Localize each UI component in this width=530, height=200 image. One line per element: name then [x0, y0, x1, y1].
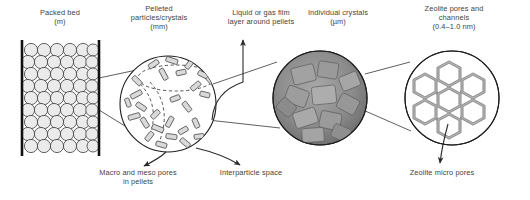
- figure-canvas: Packed bed (m) Pelleted particles/crysta…: [0, 0, 530, 200]
- label-packed-bed: Packed bed (m): [12, 8, 108, 26]
- label-zeolite-pores-channels: Zeolite pores and channels (0.4–1.0 nm): [399, 4, 509, 32]
- label-interparticle-space: Interparticle space: [205, 168, 297, 177]
- label-individual-crystals: Individual crystals (µm): [290, 8, 386, 26]
- arrow-interparticle-space: [196, 148, 240, 165]
- arrow-macro-meso-pores: [144, 152, 166, 166]
- label-pelleted-particles: Pelleted particles/crystals (mm): [112, 4, 206, 32]
- label-zeolite-micro-pores: Zeolite micro pores: [392, 168, 492, 177]
- pellet-sphere: [120, 56, 216, 152]
- crystal-micrograph-circle: [273, 51, 367, 145]
- packed-bed-column: [21, 40, 99, 156]
- label-macro-meso-pores: Macro and meso pores in pellets: [78, 168, 198, 186]
- arrow-film-layer: [212, 40, 243, 120]
